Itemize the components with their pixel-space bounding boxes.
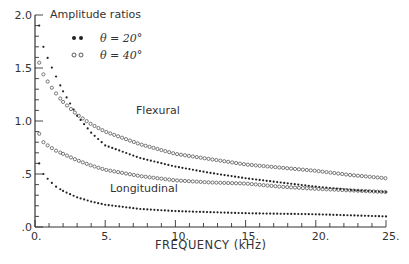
data-point — [248, 178, 250, 180]
data-point — [172, 152, 175, 155]
data-point — [128, 139, 131, 142]
data-point — [101, 129, 104, 132]
data-point — [140, 175, 143, 178]
data-point — [73, 158, 76, 161]
data-point — [144, 144, 147, 147]
data-point — [65, 104, 68, 107]
data-point — [139, 157, 141, 159]
data-point — [132, 173, 135, 176]
data-point — [337, 172, 340, 175]
data-point — [237, 212, 239, 214]
data-point — [185, 210, 187, 212]
data-point — [81, 161, 84, 164]
data-point — [308, 185, 310, 187]
data-point — [175, 153, 178, 156]
data-point — [211, 158, 214, 161]
data-point — [304, 184, 306, 186]
data-point — [65, 154, 68, 157]
data-point — [85, 120, 88, 123]
data-point — [360, 215, 362, 217]
data-point — [191, 155, 194, 158]
data-point — [192, 211, 194, 213]
data-point — [241, 212, 243, 214]
data-point — [191, 180, 194, 183]
data-point — [183, 154, 186, 157]
data-point — [262, 184, 265, 187]
data-point — [215, 158, 218, 161]
data-point — [297, 184, 299, 186]
y-tick-label: 1.5 — [15, 62, 33, 75]
data-point — [83, 123, 85, 125]
data-point — [301, 186, 304, 189]
data-point — [350, 214, 352, 216]
data-point — [289, 186, 292, 189]
data-point — [50, 86, 53, 89]
data-point — [115, 205, 117, 207]
data-point — [202, 171, 204, 173]
data-point — [329, 171, 332, 174]
data-point — [146, 159, 148, 161]
data-point — [42, 173, 44, 175]
data-point — [352, 174, 355, 177]
data-point — [124, 138, 127, 141]
data-point — [237, 176, 239, 178]
data-point — [178, 166, 180, 168]
data-point — [192, 169, 194, 171]
data-point — [50, 147, 53, 150]
data-point — [113, 133, 116, 136]
data-point — [164, 163, 166, 165]
data-point — [258, 164, 261, 167]
data-point — [42, 46, 44, 48]
data-point — [38, 25, 40, 27]
data-point — [325, 171, 328, 174]
data-point — [54, 92, 57, 95]
data-point — [250, 163, 253, 166]
data-point — [105, 168, 108, 171]
data-point — [187, 180, 190, 183]
data-point — [230, 212, 232, 214]
data-point — [258, 183, 261, 186]
data-point — [219, 181, 222, 184]
data-point — [46, 80, 49, 83]
data-point — [77, 159, 80, 162]
data-point — [87, 127, 89, 129]
data-point — [85, 162, 88, 165]
data-point — [234, 182, 237, 185]
data-point — [309, 169, 312, 172]
data-point — [372, 176, 375, 179]
data-point — [199, 211, 201, 213]
legend-open-marker-icon — [72, 53, 76, 57]
axes: 0.5.10.15.20.25..0.51.01.52.0 — [15, 9, 400, 243]
data-point — [42, 73, 45, 76]
data-point — [104, 204, 106, 206]
data-point — [238, 162, 241, 165]
data-point — [174, 210, 176, 212]
data-point — [280, 181, 282, 183]
data-point — [206, 211, 208, 213]
data-point — [289, 167, 292, 170]
data-point — [156, 147, 159, 150]
data-point — [234, 161, 237, 164]
data-point — [90, 200, 92, 202]
data-point — [242, 182, 245, 185]
data-point — [262, 164, 265, 167]
data-point — [231, 161, 234, 164]
data-point — [286, 186, 289, 189]
data-point — [164, 178, 167, 181]
data-point — [301, 168, 304, 171]
data-point — [199, 156, 202, 159]
data-point — [136, 174, 139, 177]
data-point — [305, 168, 308, 171]
data-point — [301, 184, 303, 186]
data-point — [276, 181, 278, 183]
data-point — [250, 182, 253, 185]
data-point — [223, 181, 226, 184]
data-point — [380, 176, 383, 179]
data-point — [360, 174, 363, 177]
data-point — [245, 212, 247, 214]
data-point — [105, 130, 108, 133]
data-point — [195, 155, 198, 158]
data-point — [90, 132, 92, 134]
data-point — [332, 214, 334, 216]
data-point — [227, 212, 229, 214]
